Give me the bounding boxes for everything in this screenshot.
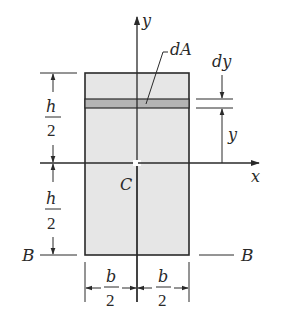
rectangle-cross-section-diagram: y x C dA dy y h 2 h 2 B B b 2 b 2 <box>0 0 284 325</box>
x-axis-label: x <box>251 167 260 186</box>
h-half-upper-numerator: h <box>46 97 56 116</box>
h-half-upper-denominator: 2 <box>47 121 56 140</box>
b-half-right-numerator: b <box>158 267 168 286</box>
h-half-lower-denominator: 2 <box>47 214 56 233</box>
da-label: dA <box>170 40 192 59</box>
b-half-left-numerator: b <box>106 267 116 286</box>
base-axis-left-label: B <box>21 245 35 265</box>
centroid-label: C <box>120 175 132 194</box>
b-half-left-denominator: 2 <box>106 291 115 310</box>
base-axis-right-label: B <box>240 245 254 265</box>
strip-distance-label: y <box>227 125 238 144</box>
y-axis-label: y <box>141 11 152 30</box>
dy-label: dy <box>212 52 232 71</box>
b-half-right-denominator: 2 <box>158 291 167 310</box>
h-half-lower-numerator: h <box>46 189 56 208</box>
